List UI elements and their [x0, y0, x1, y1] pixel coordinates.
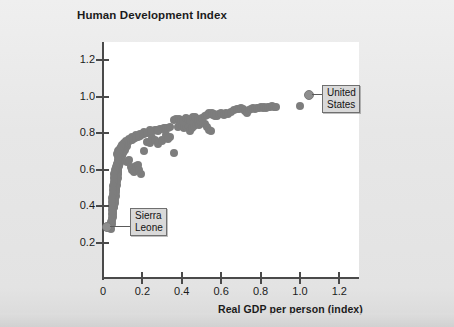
chart-title: Human Development Index	[77, 9, 227, 21]
x-axis-tick	[338, 272, 340, 284]
annotation-marker-dot	[304, 90, 314, 100]
data-point	[125, 156, 133, 164]
page-bottom-edge	[0, 313, 454, 327]
data-point	[296, 102, 304, 110]
data-point	[137, 170, 145, 178]
x-axis-tick	[141, 272, 143, 284]
y-axis-tick	[96, 132, 109, 134]
x-axis-tick-label: 0	[83, 285, 123, 297]
y-axis-tick-labels: 0.20.40.60.81.01.2	[55, 0, 95, 327]
x-axis-tick-label: 1.2	[319, 285, 359, 297]
y-axis-tick-label: 1.0	[55, 90, 95, 102]
annotation-callout-line: Leone	[135, 222, 163, 234]
annotation-callout-line: Sierra	[135, 210, 163, 222]
x-axis-tick	[299, 272, 301, 284]
data-point	[164, 135, 172, 143]
data-point	[140, 147, 148, 155]
plot-area	[103, 42, 359, 279]
y-axis-tick	[96, 205, 109, 207]
x-axis-tick	[181, 272, 183, 284]
x-axis-tick	[260, 272, 262, 284]
data-point	[166, 123, 174, 131]
y-axis-line	[102, 42, 104, 280]
x-axis-tick-label: 0.8	[241, 285, 281, 297]
y-axis-tick-label: 0.6	[55, 163, 95, 175]
annotation-callout-line: States	[327, 99, 356, 111]
y-axis-tick-label: 0.2	[55, 236, 95, 248]
x-axis-tick-label: 0.4	[162, 285, 202, 297]
data-point	[154, 127, 162, 135]
annotation-leader-line	[110, 226, 130, 227]
x-axis-tick	[220, 272, 222, 284]
y-axis-tick	[96, 242, 109, 244]
scatter-chart-figure: Human Development Index 0.20.40.60.81.01…	[0, 0, 454, 327]
annotation-marker-dot	[102, 222, 112, 232]
data-point	[272, 103, 280, 111]
data-point	[207, 127, 215, 135]
y-axis-tick	[96, 169, 109, 171]
annotation-callout[interactable]: SierraLeone	[130, 208, 167, 236]
data-point	[170, 149, 178, 157]
y-axis-tick-label: 1.2	[55, 53, 95, 65]
x-axis-tick-label: 0.6	[201, 285, 241, 297]
annotation-callout-line: United	[327, 87, 356, 99]
x-axis-tick-label: 0.2	[122, 285, 162, 297]
y-axis-tick-label: 0.8	[55, 126, 95, 138]
annotation-callout[interactable]: UnitedStates	[322, 85, 360, 113]
annotation-leader-line	[312, 94, 322, 95]
y-axis-tick-label: 0.4	[55, 199, 95, 211]
x-axis-tick-label: 1.0	[280, 285, 320, 297]
y-axis-tick	[96, 96, 109, 98]
y-axis-tick	[96, 59, 109, 61]
